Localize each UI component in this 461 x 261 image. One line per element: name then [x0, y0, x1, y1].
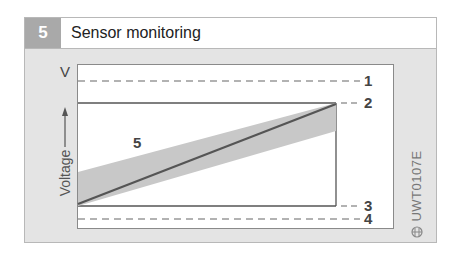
label-1: 1: [364, 72, 372, 89]
diagram-plot: 1 2 3 4 5: [0, 0, 461, 261]
label-2: 2: [364, 94, 372, 111]
label-4: 4: [364, 210, 373, 227]
band-label-5: 5: [133, 134, 141, 151]
figure-code: UWT0107E: [408, 136, 426, 236]
sensor-characteristic-line: [78, 104, 336, 204]
